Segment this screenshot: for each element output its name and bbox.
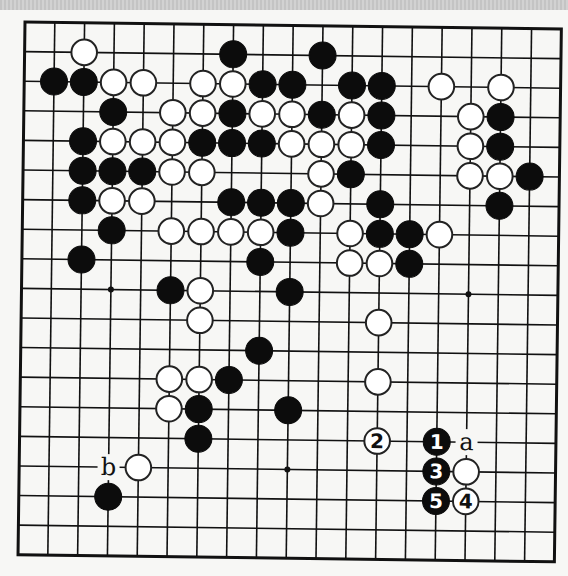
white-stone: [156, 366, 182, 392]
black-stone: [189, 129, 216, 156]
white-stone-disc: [365, 369, 391, 395]
black-stone: [487, 103, 514, 130]
white-stone: [339, 102, 365, 128]
white-stone: [366, 310, 392, 336]
black-stone-disc: [68, 246, 95, 273]
white-stone-disc: [188, 219, 214, 245]
white-stone: [279, 101, 305, 127]
white-stone-disc: [426, 222, 452, 248]
white-stone-disc: [156, 366, 182, 392]
white-stone-disc: [487, 163, 513, 189]
white-stone-disc: [218, 219, 244, 245]
black-stone-disc: [516, 163, 543, 190]
black-stone: [516, 163, 543, 190]
white-stone: [101, 69, 127, 95]
white-stone: [338, 132, 364, 158]
black-stone-disc: [276, 278, 303, 305]
black-stone-disc: [218, 189, 245, 216]
white-stone-disc: [190, 71, 216, 97]
black-stone-disc: [69, 127, 96, 154]
black-stone-disc: [487, 103, 514, 130]
board-grid-group: ab 21354: [18, 22, 561, 562]
black-stone: [245, 337, 272, 364]
white-stone: [249, 101, 275, 127]
black-stone: [98, 217, 125, 244]
black-stone-disc: [247, 189, 274, 216]
black-stone-disc: [277, 219, 304, 246]
white-stone-disc: [279, 131, 305, 157]
black-stone-disc: [40, 68, 67, 95]
black-stone: [366, 220, 393, 247]
white-stone-disc: [160, 100, 186, 126]
black-stone: [274, 397, 301, 424]
black-stone-disc: [185, 425, 212, 452]
black-stone-disc: [368, 72, 395, 99]
white-stone-disc: [488, 74, 514, 100]
black-stone: [95, 483, 122, 510]
black-stone-disc: [220, 41, 247, 68]
white-stone-disc: [129, 188, 155, 214]
white-stone: [453, 459, 479, 485]
numbered-white-stone: 4: [453, 488, 479, 514]
white-stone: [220, 71, 246, 97]
black-stone-disc: [129, 158, 156, 185]
black-stone-disc: [274, 397, 301, 424]
white-stone-disc: [337, 250, 363, 276]
white-stone: [190, 71, 216, 97]
white-stone: [160, 100, 186, 126]
white-stone-disc: [308, 131, 334, 157]
black-stone: [368, 102, 395, 129]
white-stone: [190, 100, 216, 126]
black-stone: [276, 278, 303, 305]
white-stone: [308, 131, 334, 157]
white-stone: [158, 218, 184, 244]
white-stone: [129, 188, 155, 214]
black-stone-disc: [277, 189, 304, 216]
white-stone: [308, 191, 334, 217]
black-stone: [69, 187, 96, 214]
black-stone-disc: [218, 129, 245, 156]
black-stone: [215, 366, 242, 393]
white-stone: [308, 161, 334, 187]
black-stone: [247, 189, 274, 216]
white-stone: [218, 219, 244, 245]
black-stone: [68, 246, 95, 273]
black-stone-disc: [366, 220, 393, 247]
white-stone-disc: [100, 129, 126, 155]
black-stone: [218, 189, 245, 216]
white-stone-disc: [159, 159, 185, 185]
white-stone: [367, 250, 393, 276]
black-stone: [99, 157, 126, 184]
black-stone: [100, 98, 127, 125]
black-stone: [367, 131, 394, 158]
white-stone-disc: [130, 70, 156, 96]
black-stone-disc: [247, 248, 274, 275]
black-stone-disc: [189, 129, 216, 156]
black-stone-disc: [100, 98, 127, 125]
white-stone: [71, 39, 97, 65]
black-stone-disc: [487, 133, 514, 160]
white-stone-disc: [220, 71, 246, 97]
white-stone: [156, 396, 182, 422]
white-stone-disc: [366, 310, 392, 336]
black-stone-disc: [338, 72, 365, 99]
black-stone: [157, 277, 184, 304]
white-stone: [188, 219, 214, 245]
white-stone: [159, 129, 185, 155]
black-stone: [219, 100, 246, 127]
white-stone-disc: [367, 250, 393, 276]
white-stone: [428, 74, 454, 100]
white-stone: [487, 163, 513, 189]
black-stone: [185, 425, 212, 452]
black-stone: [338, 72, 365, 99]
white-stone: [186, 367, 212, 393]
go-board: ab 21354: [0, 0, 568, 576]
white-stone: [457, 163, 483, 189]
black-stone: [277, 219, 304, 246]
move-number: 3: [429, 459, 443, 483]
white-stone: [159, 159, 185, 185]
black-stone: [69, 127, 96, 154]
black-stone-disc: [396, 221, 423, 248]
numbered-black-stone: 5: [422, 487, 449, 514]
black-stone: [249, 71, 276, 98]
